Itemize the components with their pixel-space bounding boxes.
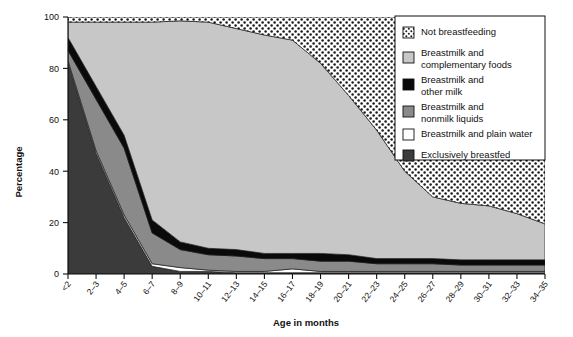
y-tick-label: 20	[49, 218, 59, 228]
legend-label-line2: other milk	[421, 86, 462, 97]
legend-swatch	[403, 150, 414, 161]
y-tick-label: 80	[49, 64, 59, 74]
legend-label-line2: nonmilk liquids	[421, 113, 484, 124]
legend-label: Breastmilk and	[421, 74, 484, 85]
chart-canvas: 020406080100 <22–34–56–78–910–1112–1314–…	[0, 0, 573, 337]
legend-swatch	[403, 129, 414, 140]
legend-swatch	[403, 27, 414, 38]
y-axis-title: Percentage	[13, 146, 24, 197]
stacked-area-chart: 020406080100 <22–34–56–78–910–1112–1314–…	[0, 0, 573, 337]
legend-label: Breastmilk and	[421, 101, 484, 112]
legend-label: Breastmilk and	[421, 47, 484, 58]
y-tick-label: 40	[49, 167, 59, 177]
legend: Not breastfeedingBreastmilk andcomplemen…	[395, 16, 545, 161]
y-tick-label: 0	[54, 269, 59, 279]
legend-label: Not breastfeeding	[421, 26, 496, 37]
y-tick-label: 100	[44, 12, 59, 22]
x-axis-title: Age in months	[273, 317, 339, 328]
legend-label-line2: complementary foods	[421, 59, 512, 70]
y-tick-label: 60	[49, 115, 59, 125]
legend-label: Breastmilk and plain water	[421, 128, 532, 139]
legend-swatch	[403, 79, 414, 90]
legend-swatch	[403, 52, 414, 63]
legend-swatch	[403, 106, 414, 117]
legend-label: Exclusively breastfed	[421, 149, 510, 160]
